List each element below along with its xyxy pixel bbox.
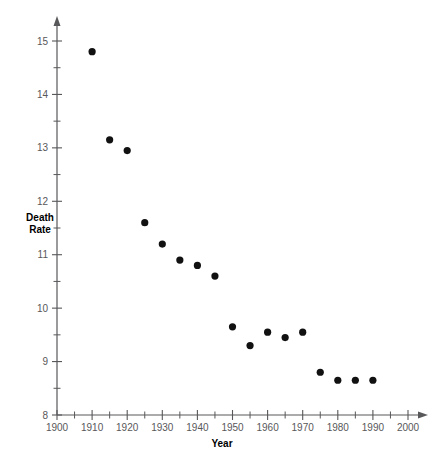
data-point [176,256,183,263]
x-tick-label: 1950 [221,422,244,433]
y-axis-arrow-icon [54,16,61,26]
data-point [229,323,236,330]
x-tick-label: 1960 [256,422,279,433]
y-axis-title-line1: Death [26,212,54,223]
x-tick-label: 1900 [46,422,69,433]
data-point [159,240,166,247]
data-point [299,329,306,336]
data-point [246,342,253,349]
x-tick-label: 1910 [81,422,104,433]
data-point [317,369,324,376]
y-tick-label: 11 [38,249,49,260]
x-axis-title: Year [211,438,232,449]
y-tick-label: 15 [37,36,49,47]
x-tick-label: 1970 [292,422,315,433]
data-point [106,136,113,143]
x-axis: 1900191019201930194019501960197019801990… [46,410,428,433]
x-tick-label: 1980 [327,422,350,433]
data-point [352,377,359,384]
y-tick-label: 8 [42,410,48,421]
y-tick-label: 12 [37,196,49,207]
data-point [89,48,96,55]
data-point [211,272,218,279]
data-point [141,219,148,226]
x-tick-label: 2000 [397,422,420,433]
y-tick-label: 14 [37,89,49,100]
data-point [124,147,131,154]
x-tick-label: 1930 [151,422,174,433]
x-axis-arrow-icon [418,412,428,419]
plot-area: 89101112131415 1900191019201930194019501… [0,0,446,463]
scatter-chart: 89101112131415 1900191019201930194019501… [0,0,446,463]
y-tick-label: 13 [37,142,49,153]
x-tick-label: 1990 [362,422,385,433]
data-point [334,377,341,384]
y-tick-label: 9 [42,356,48,367]
y-axis-title-line2: Rate [29,224,51,235]
y-tick-label: 10 [37,303,49,314]
data-point [282,334,289,341]
data-point [194,262,201,269]
data-points [89,48,377,384]
data-point [264,329,271,336]
x-tick-label: 1940 [186,422,209,433]
data-point [369,377,376,384]
x-tick-label: 1920 [116,422,139,433]
